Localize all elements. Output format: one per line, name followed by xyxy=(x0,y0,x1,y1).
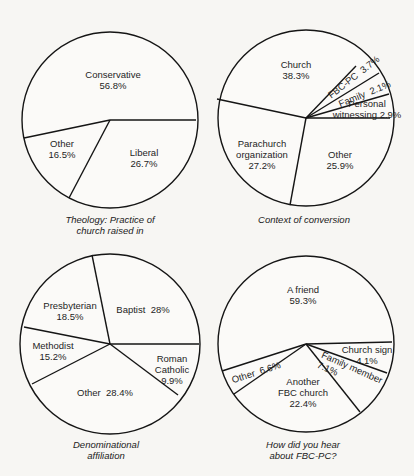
slice-label: Church 38.3% xyxy=(281,59,312,81)
slice-label: Other 28.4% xyxy=(77,387,133,398)
slice-label: Baptist 28% xyxy=(116,304,169,315)
slice-label: Presbyterian 18.5% xyxy=(43,300,96,322)
slice-label: Parachurch organization 27.2% xyxy=(236,138,288,171)
pie-chart-1 xyxy=(22,32,198,208)
pie-chart-grid: Conservative 56.8%Liberal 26.7%Other 16.… xyxy=(0,0,414,476)
slice-label: Another FBC church 22.4% xyxy=(278,376,328,409)
slice-label: Liberal 26.7% xyxy=(130,147,159,169)
chart-caption: Context of conversion xyxy=(258,214,350,225)
slice-label: Other 16.5% xyxy=(49,138,76,160)
slice-label: A friend 59.3% xyxy=(287,284,319,306)
chart-caption: How did you hear about FBC-PC? xyxy=(266,439,340,461)
slice-label: Conservative 56.8% xyxy=(85,69,140,91)
chart-caption: Denominational affiliation xyxy=(73,439,139,461)
slice-label: Roman Catholic 9.9% xyxy=(155,353,189,386)
slice-label: Other 25.9% xyxy=(327,149,354,171)
chart-caption: Theology: Practice of church raised in xyxy=(65,214,154,236)
slice-label: Methodist 15.2% xyxy=(32,340,73,362)
slice-label: Personal witnessing 2.9% xyxy=(333,98,402,120)
